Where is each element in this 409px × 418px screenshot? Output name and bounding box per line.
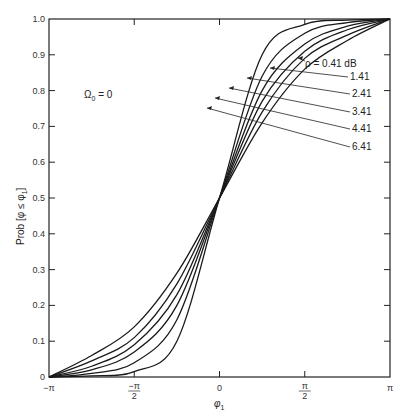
cdf-curves bbox=[49, 19, 390, 377]
y-tick-label: 0.7 bbox=[32, 121, 45, 131]
y-tick-label: 0.2 bbox=[32, 300, 45, 310]
y-tick-label: 0.3 bbox=[32, 265, 45, 275]
cdf-curve-5 bbox=[49, 19, 390, 377]
arrowhead-icon bbox=[215, 96, 220, 100]
x-tick-label-num: −π bbox=[129, 381, 140, 391]
series-label-leaders: ρ = 0.41 dB1.412.413.414.416.41 bbox=[207, 56, 372, 152]
x-tick-label: 0 bbox=[217, 383, 222, 393]
x-tick-label-den: 2 bbox=[132, 391, 137, 401]
x-axis-label: φ1 bbox=[214, 398, 225, 411]
series-label: 4.41 bbox=[352, 123, 372, 134]
series-label: 1.41 bbox=[350, 71, 370, 82]
leader-line bbox=[229, 88, 350, 112]
leader-line bbox=[207, 108, 350, 147]
y-axis-label: Prob [φ ≤ φ1] bbox=[15, 187, 28, 245]
series-label: ρ = 0.41 dB bbox=[305, 58, 357, 69]
leader-line bbox=[270, 68, 348, 77]
x-tick-label-den: 2 bbox=[302, 391, 307, 401]
y-tick-label: 0 bbox=[40, 372, 45, 382]
y-tick-label: 0.5 bbox=[32, 193, 45, 203]
leader-line bbox=[215, 98, 350, 129]
y-tick-label: 0.1 bbox=[32, 336, 45, 346]
leader-line bbox=[247, 78, 350, 94]
probability-cdf-chart: 00.10.20.30.40.50.60.70.80.91.0 −π−π20π2… bbox=[0, 0, 409, 418]
y-tick-label: 1.0 bbox=[32, 14, 45, 24]
y-tick-label: 0.9 bbox=[32, 50, 45, 60]
x-tick-label: −π bbox=[43, 383, 54, 393]
x-tick-label-num: π bbox=[302, 381, 308, 391]
arrowhead-icon bbox=[229, 86, 234, 90]
y-tick-label: 0.6 bbox=[32, 157, 45, 167]
arrowhead-icon bbox=[247, 76, 252, 80]
series-label: 3.41 bbox=[352, 106, 372, 117]
series-label: 6.41 bbox=[352, 141, 372, 152]
y-tick-label: 0.4 bbox=[32, 229, 45, 239]
arrowhead-icon bbox=[270, 66, 275, 70]
series-label: 2.41 bbox=[352, 88, 372, 99]
x-tick-label: π bbox=[387, 383, 393, 393]
y-axis-ticks: 00.10.20.30.40.50.60.70.80.91.0 bbox=[32, 14, 390, 382]
y-tick-label: 0.8 bbox=[32, 86, 45, 96]
omega-annotation: Ω0 = 0 bbox=[84, 89, 113, 102]
